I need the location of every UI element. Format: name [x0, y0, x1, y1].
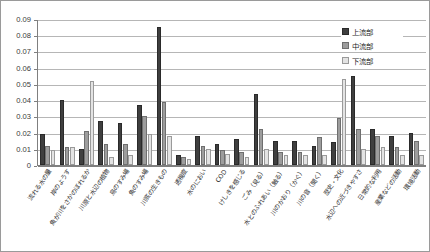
x-axis-category-label: 透視度 — [173, 168, 189, 187]
bar[interactable] — [317, 137, 322, 165]
bar[interactable] — [201, 146, 206, 165]
legend-label: 下流部 — [352, 55, 373, 66]
bar[interactable] — [273, 141, 278, 165]
bar[interactable] — [60, 100, 65, 165]
y-axis-tick-mark — [34, 85, 37, 86]
x-axis-category: 水のにおい — [193, 167, 212, 241]
bar[interactable] — [322, 155, 327, 165]
bar-group — [96, 20, 115, 165]
bar[interactable] — [123, 144, 128, 165]
bar[interactable] — [128, 155, 133, 165]
bar[interactable] — [137, 105, 142, 165]
bar[interactable] — [51, 150, 56, 165]
bar[interactable] — [278, 152, 283, 165]
bar[interactable] — [98, 121, 103, 165]
bar[interactable] — [206, 149, 211, 165]
bar[interactable] — [414, 141, 419, 165]
legend-item[interactable]: 下流部 — [341, 54, 403, 66]
x-axis-category: けしきを感じる — [232, 167, 251, 241]
legend-label: 上流部 — [352, 26, 373, 37]
bar[interactable] — [298, 152, 303, 165]
bar[interactable] — [342, 79, 347, 165]
bar[interactable] — [225, 154, 230, 165]
y-axis-tick-label: 0.05 — [1, 81, 31, 89]
x-axis-category: 透視度 — [173, 167, 192, 241]
bar-group — [57, 20, 76, 165]
x-axis-category: 川底の生きもの — [154, 167, 173, 241]
y-axis-tick-mark — [34, 101, 37, 102]
bar[interactable] — [148, 134, 153, 165]
bar[interactable] — [187, 159, 192, 165]
bar[interactable] — [361, 149, 366, 165]
bar[interactable] — [337, 118, 342, 165]
bar[interactable] — [419, 155, 424, 165]
bar[interactable] — [356, 129, 361, 165]
legend-item[interactable]: 中流部 — [341, 40, 403, 52]
bar[interactable] — [351, 76, 356, 165]
bar[interactable] — [389, 136, 394, 165]
bar[interactable] — [395, 147, 400, 165]
legend-item[interactable]: 上流部 — [341, 25, 403, 37]
x-axis-category: 産業などの活動 — [387, 167, 406, 241]
x-axis-category-labels: 流れる水の量岸のようす魚が川をさかのぼれるか川原と水辺の植物鳥のすみ場魚のすみ場… — [37, 167, 426, 241]
bar[interactable] — [79, 149, 84, 165]
bar-group — [232, 20, 251, 165]
bar[interactable] — [157, 27, 162, 165]
bar[interactable] — [90, 81, 95, 165]
bar[interactable] — [109, 157, 114, 165]
bar[interactable] — [215, 144, 220, 165]
bar-group — [251, 20, 270, 165]
x-axis-category: 水辺への近づきやすさ — [348, 167, 367, 241]
bar[interactable] — [409, 133, 414, 165]
bar[interactable] — [176, 155, 181, 165]
bar[interactable] — [264, 149, 269, 165]
bar[interactable] — [400, 155, 405, 165]
y-axis-tick-mark — [34, 52, 37, 53]
bar[interactable] — [234, 139, 239, 165]
bar[interactable] — [370, 129, 375, 165]
bar[interactable] — [70, 147, 75, 165]
bar-group — [271, 20, 290, 165]
legend-swatch-icon — [342, 28, 349, 35]
y-axis-tick-label: 0.08 — [1, 32, 31, 40]
bar[interactable] — [239, 152, 244, 165]
bar[interactable] — [84, 131, 89, 165]
bar[interactable] — [167, 136, 172, 165]
bar[interactable] — [381, 147, 386, 165]
legend-swatch-icon — [342, 42, 349, 49]
bar[interactable] — [375, 136, 380, 165]
bar[interactable] — [259, 129, 264, 165]
x-axis-category: 環境活動 — [407, 167, 426, 241]
bar[interactable] — [254, 94, 259, 165]
bar[interactable] — [118, 123, 123, 165]
y-axis-tick-label: 0 — [1, 162, 31, 170]
bar-group — [116, 20, 135, 165]
x-axis-category-label: 流れる水の量 — [26, 168, 52, 202]
y-axis-tick-label: 0.06 — [1, 65, 31, 73]
bar[interactable] — [45, 146, 50, 165]
legend-swatch-icon — [342, 57, 349, 64]
bar-group — [77, 20, 96, 165]
x-axis-category: 流れる水の量 — [37, 167, 56, 241]
bar[interactable] — [162, 102, 167, 165]
bar[interactable] — [181, 157, 186, 165]
bar[interactable] — [195, 136, 200, 165]
y-axis-tick-label: 0.07 — [1, 48, 31, 56]
bar[interactable] — [312, 146, 317, 165]
y-axis-tick-label: 0.01 — [1, 146, 31, 154]
x-axis-category-label: COD — [214, 168, 228, 184]
bar[interactable] — [284, 155, 289, 165]
y-axis-tick-mark — [34, 150, 37, 151]
bar[interactable] — [303, 155, 308, 165]
bar[interactable] — [245, 157, 250, 165]
bar[interactable] — [220, 150, 225, 165]
bar[interactable] — [142, 116, 147, 165]
bar[interactable] — [292, 141, 297, 165]
bar[interactable] — [104, 144, 109, 165]
bar[interactable] — [65, 147, 70, 165]
bar-group — [38, 20, 57, 165]
legend-label: 中流部 — [352, 40, 373, 51]
bar[interactable] — [40, 134, 45, 165]
bar-group — [193, 20, 212, 165]
bar[interactable] — [331, 142, 336, 165]
